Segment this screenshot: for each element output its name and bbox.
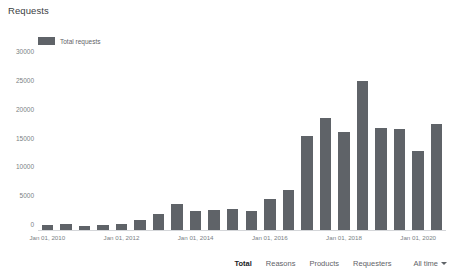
- x-axis-tick-label: Jan 01, 2020: [400, 234, 436, 241]
- requests-bar-chart: Total requests 0500010000150002000025000…: [0, 0, 453, 248]
- y-axis-tick-label: 25000: [16, 76, 34, 83]
- tab-requesters[interactable]: Requesters: [353, 259, 391, 268]
- bar-series-total-requests: [38, 58, 446, 231]
- bar[interactable]: [208, 210, 219, 231]
- x-axis-tick-label: Jan 01, 2014: [178, 234, 214, 241]
- bar[interactable]: [153, 214, 164, 231]
- bar[interactable]: [320, 118, 331, 231]
- bar[interactable]: [394, 129, 405, 231]
- bar[interactable]: [431, 124, 442, 231]
- bar[interactable]: [227, 209, 238, 231]
- bar[interactable]: [338, 132, 349, 231]
- y-axis-tick-label: 10000: [16, 163, 34, 170]
- y-axis-tick-label: 20000: [16, 105, 34, 112]
- legend-label-total-requests: Total requests: [60, 38, 100, 45]
- bar[interactable]: [375, 128, 386, 231]
- time-range-select[interactable]: All time: [413, 259, 447, 268]
- legend-swatch-total-requests: [38, 37, 55, 45]
- x-axis-baseline: [38, 230, 446, 231]
- x-axis-tick-label: Jan 01, 2018: [326, 234, 362, 241]
- x-axis-tick-label: Jan 01, 2012: [104, 234, 140, 241]
- x-axis-tick-label: Jan 01, 2016: [252, 234, 288, 241]
- bar[interactable]: [264, 199, 275, 231]
- chart-toolbar: Total Reasons Products Requesters All ti…: [234, 259, 447, 268]
- bar[interactable]: [171, 204, 182, 231]
- bar[interactable]: [357, 81, 368, 231]
- tab-reasons[interactable]: Reasons: [266, 259, 296, 268]
- y-axis-tick-label: 30000: [16, 48, 34, 55]
- bar[interactable]: [190, 211, 201, 231]
- time-range-label: All time: [413, 259, 438, 268]
- bar[interactable]: [246, 211, 257, 231]
- bar[interactable]: [301, 136, 312, 231]
- bar[interactable]: [283, 190, 294, 231]
- plot-area: 050001000015000200002500030000 Jan 01, 2…: [38, 58, 446, 231]
- y-axis-tick-label: 5000: [20, 192, 34, 199]
- y-axis-tick-label: 15000: [16, 134, 34, 141]
- bar[interactable]: [412, 151, 423, 231]
- tab-products[interactable]: Products: [309, 259, 339, 268]
- chevron-down-icon: [441, 262, 447, 265]
- tab-total[interactable]: Total: [234, 259, 251, 268]
- x-axis-tick-label: Jan 01, 2010: [29, 234, 65, 241]
- chart-legend: Total requests: [38, 37, 100, 45]
- y-axis-tick-label: 0: [30, 221, 34, 228]
